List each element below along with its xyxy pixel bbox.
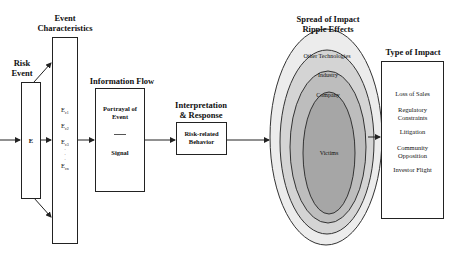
- community-line2: Opposition: [382, 152, 443, 160]
- risk-event-title-line2: Event: [2, 68, 42, 78]
- risk-event-label: E: [22, 137, 40, 145]
- ring-label-company: Company: [297, 92, 359, 100]
- risk-event-title: Risk Event: [2, 58, 42, 78]
- event-characteristics-title-line2: Characteristics: [28, 23, 102, 33]
- signal-label: Signal: [96, 149, 144, 157]
- characteristic-c2: Ec2: [53, 122, 77, 133]
- impact-litigation: Litigation: [382, 128, 443, 136]
- information-flow-title: Information Flow: [82, 76, 162, 86]
- portrayal-label: Portrayal of Event: [96, 105, 144, 120]
- characteristic-cn: Ecn: [53, 162, 77, 173]
- type-of-impact-box: Loss of Sales Regulatory Constraints Lit…: [381, 61, 444, 219]
- event-characteristics-title: Event Characteristics: [28, 13, 102, 33]
- information-flow-box: Portrayal of Event Signal: [95, 88, 145, 192]
- behavior-line1: Risk-related: [177, 130, 226, 138]
- ring-label-other-technologies: Other Technologies: [282, 53, 372, 61]
- ring-label-victims: Victims: [303, 150, 355, 158]
- interpretation-title-line2: & Response: [166, 110, 236, 120]
- ring-label-industry: Industry: [297, 72, 359, 80]
- arrow-risk-to-bottom-characteristics: [34, 198, 51, 217]
- divider-line: [114, 134, 126, 135]
- characteristic-c1: Ec1: [53, 106, 77, 117]
- event-characteristics-box: Ec1 Ec2 Ec3 · · · Ecn: [52, 37, 78, 244]
- impact-investor-flight: Investor Flight: [382, 166, 443, 174]
- regulatory-line2: Constraints: [382, 114, 443, 122]
- regulatory-line1: Regulatory: [382, 106, 443, 114]
- impact-loss-of-sales: Loss of Sales: [382, 90, 443, 98]
- portrayal-line2: Event: [96, 113, 144, 121]
- spread-of-impact-title: Spread of Impact Ripple Effects: [280, 14, 376, 34]
- type-of-impact-title: Type of Impact: [372, 47, 454, 57]
- spread-title-line1: Spread of Impact: [280, 14, 376, 24]
- risk-event-title-line1: Risk: [2, 58, 42, 68]
- impact-regulatory-constraints: Regulatory Constraints: [382, 106, 443, 121]
- interpretation-title-line1: Interpretation: [166, 100, 236, 110]
- spread-title-line2: Ripple Effects: [280, 24, 376, 34]
- event-characteristics-title-line1: Event: [28, 13, 102, 23]
- interpretation-title: Interpretation & Response: [166, 100, 236, 120]
- impact-community-opposition: Community Opposition: [382, 144, 443, 159]
- risk-related-behavior-label: Risk-related Behavior: [177, 130, 226, 145]
- risk-event-box: E: [21, 82, 41, 199]
- ripple-rings: [270, 29, 382, 245]
- risk-related-behavior-box: Risk-related Behavior: [176, 122, 227, 155]
- portrayal-line1: Portrayal of: [96, 105, 144, 113]
- community-line1: Community: [382, 144, 443, 152]
- behavior-line2: Behavior: [177, 138, 226, 146]
